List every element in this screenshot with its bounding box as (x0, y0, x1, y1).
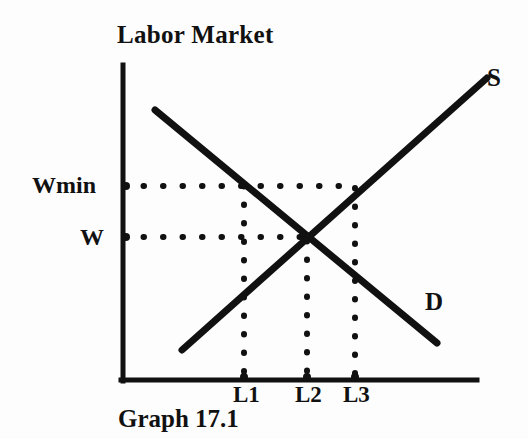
labor-market-figure: Labor Market Wmin W S D L1 L2 L3 Graph 1… (0, 0, 528, 439)
demand-curve-label: D (425, 289, 443, 314)
demand-curve (155, 110, 437, 343)
figure-caption: Graph 17.1 (118, 406, 239, 431)
l1-axis-tick (240, 373, 248, 381)
wmin-axis-tick (122, 182, 130, 190)
page-title: Labor Market (117, 22, 274, 47)
x-axis-label-l3: L3 (343, 383, 370, 406)
equilibrium-point (300, 232, 310, 242)
labor-market-plot (0, 0, 528, 439)
y-axis-label-wmin: Wmin (32, 173, 96, 197)
x-axis-label-l2: L2 (295, 383, 322, 406)
y-axis-label-w: W (80, 225, 104, 249)
supply-curve-label: S (487, 65, 501, 90)
l2-axis-tick (303, 373, 311, 381)
w-axis-tick (122, 233, 130, 241)
x-axis-label-l1: L1 (233, 383, 260, 406)
l3-axis-tick (351, 373, 359, 381)
